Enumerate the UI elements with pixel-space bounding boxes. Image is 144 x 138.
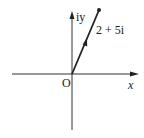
y-axis-arrowhead-icon: [70, 11, 75, 19]
vector-endpoint-dot: [97, 8, 101, 12]
argand-diagram: iy 2 + 5i O x: [0, 0, 144, 138]
x-axis-label: x: [127, 78, 134, 92]
y-axis-label: iy: [76, 10, 85, 24]
x-axis-arrowhead-icon: [130, 72, 139, 77]
origin-label: O: [62, 76, 71, 90]
vector-label: 2 + 5i: [96, 23, 125, 37]
